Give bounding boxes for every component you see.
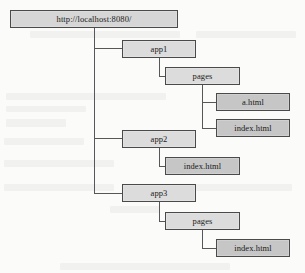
background-artifact — [4, 138, 84, 145]
node-label: a.html — [242, 98, 264, 107]
node-app1-pages[interactable]: pages — [165, 67, 240, 85]
node-label: http://localhost:8080/ — [57, 15, 132, 24]
edge-root-trunk — [94, 28, 95, 194]
node-a-html[interactable]: a.html — [216, 93, 290, 111]
node-label: pages — [193, 217, 213, 226]
background-artifact — [6, 93, 166, 100]
node-label: index.html — [234, 244, 272, 253]
node-label: app2 — [151, 135, 168, 144]
node-label: index.html — [234, 124, 272, 133]
node-app2[interactable]: app2 — [122, 130, 196, 148]
node-app3-index-html[interactable]: index.html — [216, 239, 290, 257]
edge-app1pages-indexhtml — [202, 128, 217, 129]
edge-app1pages-trunk — [202, 85, 203, 128]
background-artifact — [196, 31, 296, 38]
node-app3-pages[interactable]: pages — [165, 212, 240, 230]
node-root[interactable]: http://localhost:8080/ — [10, 10, 178, 28]
node-app3[interactable]: app3 — [122, 184, 196, 202]
edge-root-app2 — [94, 138, 122, 139]
node-app1-index-html[interactable]: index.html — [216, 119, 290, 137]
node-label: pages — [193, 72, 213, 81]
background-artifact — [110, 206, 160, 213]
edge-app1-trunk — [159, 57, 160, 76]
background-artifact — [30, 31, 180, 38]
background-artifact — [4, 160, 114, 167]
edge-app1pages-ahtml — [202, 102, 217, 103]
node-label: index.html — [184, 162, 222, 171]
edge-app2-trunk — [159, 148, 160, 166]
background-artifact — [4, 184, 114, 191]
edge-app3pages-trunk — [202, 230, 203, 248]
background-artifact — [196, 184, 292, 191]
node-app2-index-html[interactable]: index.html — [165, 157, 240, 175]
edge-app3-trunk — [159, 202, 160, 221]
background-artifact — [60, 263, 230, 270]
edge-root-app3 — [94, 193, 122, 194]
edge-root-app1 — [94, 48, 122, 49]
background-artifact — [6, 119, 66, 127]
node-app1[interactable]: app1 — [122, 40, 196, 58]
node-label: app1 — [151, 45, 168, 54]
edge-app3pages-indexhtml — [202, 248, 217, 249]
tree-diagram-canvas: http://localhost:8080/ app1 pages a.html… — [0, 0, 305, 273]
node-label: app3 — [151, 189, 168, 198]
background-artifact — [6, 106, 86, 112]
